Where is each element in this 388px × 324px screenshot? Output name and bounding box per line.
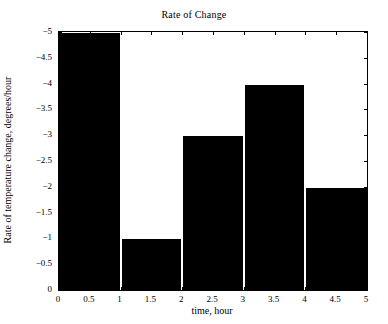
y-tick-mark-right — [364, 238, 368, 239]
y-tick-label: −4.5 — [18, 52, 52, 62]
y-tick-mark — [58, 32, 62, 33]
x-tick-label: 3 — [241, 294, 246, 304]
x-tick-label: 2.5 — [206, 294, 217, 304]
x-tick-mark — [182, 287, 183, 291]
y-tick-mark — [58, 109, 62, 110]
y-tick-mark — [58, 264, 62, 265]
y-tick-label: 0 — [18, 284, 52, 294]
y-tick-mark — [58, 58, 62, 59]
x-tick-mark-top — [336, 31, 337, 35]
x-tick-label: 4.5 — [330, 294, 341, 304]
figure-canvas: Rate of Change Rate of temperature chang… — [0, 0, 388, 324]
y-tick-mark-right — [364, 161, 368, 162]
x-tick-label: 1 — [117, 294, 122, 304]
x-tick-label: 1.5 — [145, 294, 156, 304]
x-tick-mark — [275, 287, 276, 291]
bar-4-5 — [305, 187, 367, 290]
y-tick-mark — [58, 161, 62, 162]
bar-1-2 — [121, 238, 183, 290]
x-tick-mark — [305, 287, 306, 291]
y-tick-label: −0.5 — [18, 258, 52, 268]
y-tick-label: −1 — [18, 232, 52, 242]
x-tick-mark-top — [305, 31, 306, 35]
y-tick-mark-right — [364, 264, 368, 265]
bar-2-3 — [182, 135, 244, 290]
y-tick-mark-right — [364, 213, 368, 214]
x-tick-label: 3.5 — [268, 294, 279, 304]
x-tick-mark-top — [151, 31, 152, 35]
y-axis-label-container: Rate of temperature change, degrees/hour — [0, 31, 14, 289]
y-tick-mark-right — [364, 84, 368, 85]
x-tick-mark — [90, 287, 91, 291]
y-tick-label: −3 — [18, 129, 52, 139]
x-tick-mark — [244, 287, 245, 291]
y-tick-label: −4 — [18, 78, 52, 88]
x-tick-mark — [121, 287, 122, 291]
y-tick-mark-right — [364, 290, 368, 291]
y-tick-label: −2.5 — [18, 155, 52, 165]
x-tick-label: 4 — [302, 294, 307, 304]
plot-area — [58, 31, 368, 291]
x-tick-label: 5 — [364, 294, 369, 304]
x-tick-mark-top — [121, 31, 122, 35]
bar-0-1 — [59, 32, 121, 290]
y-tick-mark — [58, 187, 62, 188]
x-tick-label: 0.5 — [83, 294, 94, 304]
chart-title: Rate of Change — [0, 9, 388, 20]
y-axis-label: Rate of temperature change, degrees/hour — [2, 77, 13, 244]
x-tick-mark — [151, 287, 152, 291]
x-tick-label: 0 — [56, 294, 61, 304]
y-tick-mark-right — [364, 109, 368, 110]
x-tick-mark-top — [275, 31, 276, 35]
y-tick-label: −2 — [18, 181, 52, 191]
y-tick-mark-right — [364, 187, 368, 188]
y-tick-mark-right — [364, 32, 368, 33]
x-tick-mark-top — [244, 31, 245, 35]
y-tick-mark — [58, 135, 62, 136]
y-tick-mark — [58, 290, 62, 291]
y-tick-mark — [58, 84, 62, 85]
y-tick-label: −5 — [18, 26, 52, 36]
x-tick-mark-top — [213, 31, 214, 35]
y-tick-label: −1.5 — [18, 207, 52, 217]
x-tick-mark-top — [182, 31, 183, 35]
y-tick-mark-right — [364, 58, 368, 59]
bar-3-4 — [244, 84, 306, 290]
x-tick-label: 2 — [179, 294, 184, 304]
x-tick-mark — [213, 287, 214, 291]
y-tick-mark — [58, 213, 62, 214]
y-tick-label: −3.5 — [18, 103, 52, 113]
bars-container — [59, 32, 367, 290]
x-axis-label: time, hour — [58, 305, 366, 316]
y-tick-mark — [58, 238, 62, 239]
x-tick-mark — [336, 287, 337, 291]
x-tick-mark-top — [90, 31, 91, 35]
y-tick-mark-right — [364, 135, 368, 136]
